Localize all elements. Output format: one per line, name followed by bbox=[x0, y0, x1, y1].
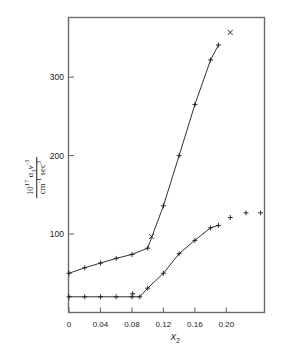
data-point-plus bbox=[130, 291, 135, 296]
x-tick-label: 0.16 bbox=[187, 320, 203, 329]
x-axis-label: X2 bbox=[169, 332, 180, 344]
x-axis-ticks bbox=[69, 308, 226, 313]
data-point-plus bbox=[67, 294, 72, 299]
data-point-plus bbox=[216, 223, 221, 228]
data-point-plus bbox=[208, 57, 213, 62]
x-tick-label: 0.20 bbox=[219, 320, 235, 329]
data-point-plus bbox=[228, 215, 233, 220]
data-point-plus bbox=[114, 256, 119, 261]
data-point-plus bbox=[67, 271, 72, 276]
x-tick-label: 0.12 bbox=[156, 320, 172, 329]
data-point-plus bbox=[98, 261, 103, 266]
data-point-plus bbox=[114, 294, 119, 299]
y-tick-label: 200 bbox=[50, 151, 64, 161]
data-point-plus bbox=[98, 294, 103, 299]
data-point-plus bbox=[192, 102, 197, 107]
data-point-plus bbox=[82, 265, 87, 270]
data-point-plus bbox=[161, 203, 166, 208]
data-point-plus bbox=[244, 210, 249, 215]
data-point-plus bbox=[177, 153, 182, 158]
data-point-plus bbox=[129, 294, 134, 299]
x-tick-label: 0 bbox=[67, 320, 72, 329]
y-axis-ticks bbox=[69, 77, 74, 234]
data-point-cross bbox=[228, 30, 233, 35]
series-line bbox=[69, 225, 218, 296]
y-axis-tick-labels: 100200300 bbox=[50, 72, 64, 239]
x-tick-label: 0.08 bbox=[124, 320, 140, 329]
data-point-plus bbox=[145, 246, 150, 251]
data-point-plus bbox=[129, 252, 134, 257]
figure-panel: 1017 α3ν-3 cm-1 sec3 00.040.080.120.160.… bbox=[0, 0, 281, 353]
data-point-plus bbox=[82, 294, 87, 299]
plot-frame bbox=[69, 18, 265, 313]
data-point-plus bbox=[216, 42, 221, 47]
data-point-plus bbox=[258, 210, 263, 215]
x-axis-tick-labels: 00.040.080.120.160.20 bbox=[67, 320, 235, 329]
data-series-markers bbox=[67, 30, 264, 299]
y-tick-label: 300 bbox=[50, 72, 64, 82]
x-tick-label: 0.04 bbox=[93, 320, 109, 329]
y-tick-label: 100 bbox=[50, 229, 64, 239]
plot-canvas: 00.040.080.120.160.20 100200300 X2 bbox=[0, 0, 281, 353]
data-series-lines bbox=[69, 45, 218, 297]
